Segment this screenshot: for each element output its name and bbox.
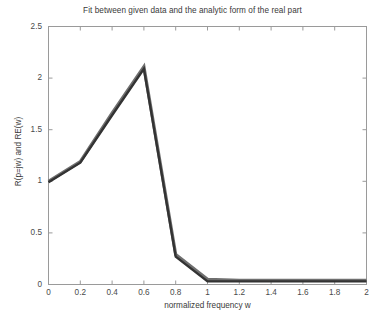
x-tick-label: 1.6 (288, 288, 318, 297)
x-tick-label: 1.8 (320, 288, 350, 297)
x-tick-label: 2 (352, 288, 382, 297)
x-tick-label: 1 (193, 288, 223, 297)
x-tick-label: 1.4 (256, 288, 286, 297)
x-tick-label: 0 (34, 288, 64, 297)
y-tick-label: 0.5 (14, 228, 42, 237)
y-tick-label: 0 (14, 280, 42, 289)
x-tick-label: 0.6 (129, 288, 159, 297)
axes-frame (49, 27, 367, 285)
figure-canvas: Fit between given data and the analytic … (0, 0, 385, 326)
x-tick-label: 1.2 (224, 288, 254, 297)
x-tick-label: 0.4 (97, 288, 127, 297)
plot-area (0, 0, 385, 326)
x-axis-label: normalized frequency w (48, 301, 367, 310)
x-tick-label: 0.8 (161, 288, 191, 297)
x-tick-label: 0.2 (65, 288, 95, 297)
y-axis-label: R(p=jw) and RE(w) (14, 82, 23, 222)
y-tick-label: 2.5 (14, 22, 42, 31)
